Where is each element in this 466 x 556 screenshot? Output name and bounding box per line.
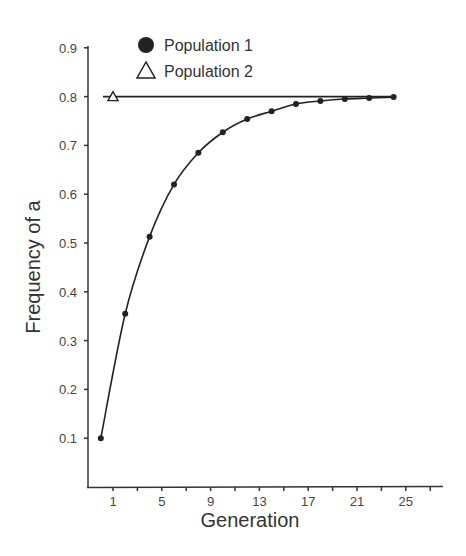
population-1-point-marker [195, 150, 201, 156]
population-1-point-marker [122, 311, 128, 317]
chart: 0.10.20.30.40.50.60.70.80.9 15913172125 … [0, 0, 466, 556]
y-tick-label: 0.8 [59, 90, 77, 105]
series [98, 92, 397, 442]
x-tick-label: 13 [252, 494, 266, 509]
population-1-point-marker [98, 435, 104, 441]
population-1-point-marker [244, 116, 250, 122]
x-axis-label: Generation [201, 509, 300, 531]
y-axis-label: Frequency of a [22, 199, 44, 333]
y-tick-label: 0.2 [59, 382, 77, 397]
legend-label-population-2: Population 2 [164, 63, 253, 80]
x-tick-label: 25 [399, 494, 413, 509]
x-tick-label: 1 [109, 494, 116, 509]
y-tick-label: 0.5 [59, 236, 77, 251]
population-1-point-marker [147, 234, 153, 240]
x-tick-label: 21 [350, 494, 364, 509]
x-ticks: 15913172125 [109, 487, 430, 509]
x-tick-label: 9 [207, 494, 214, 509]
legend-open-triangle-icon [137, 62, 155, 78]
legend-label-population-1: Population 1 [164, 37, 253, 54]
x-tick-label: 5 [158, 494, 165, 509]
y-tick-label: 0.7 [59, 138, 77, 153]
population-1-point-marker [366, 95, 372, 101]
population-1-point-marker [171, 181, 177, 187]
population-1-point-marker [317, 98, 323, 104]
y-ticks: 0.10.20.30.40.50.60.70.80.9 [59, 41, 88, 446]
x-axis-line [87, 487, 443, 488]
legend: Population 1 Population 2 [137, 37, 253, 80]
legend-filled-circle-icon [138, 37, 154, 53]
population-1-point-marker [293, 101, 299, 107]
population-1-point-marker [342, 96, 348, 102]
population-1-point-marker [391, 94, 397, 100]
population-1-point-marker [220, 129, 226, 135]
axes [87, 46, 443, 488]
population-1-point-marker [269, 108, 275, 114]
y-tick-label: 0.3 [59, 334, 77, 349]
x-tick-label: 17 [301, 494, 315, 509]
y-tick-label: 0.6 [59, 187, 77, 202]
y-tick-label: 0.9 [59, 41, 77, 56]
population-1-curve [101, 97, 394, 438]
y-tick-label: 0.4 [59, 285, 77, 300]
y-tick-label: 0.1 [59, 431, 77, 446]
